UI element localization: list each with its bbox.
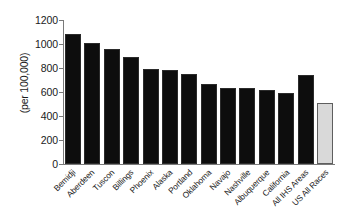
bar[interactable] (201, 84, 217, 164)
bar-slot (65, 20, 81, 164)
bar-slot (84, 20, 100, 164)
x-tick-slot: Tuscon (102, 166, 118, 217)
bar[interactable] (84, 43, 100, 164)
bar-slot (123, 20, 139, 164)
bar-slot (143, 20, 159, 164)
y-axis-tick-label: 0 (12, 159, 58, 169)
y-axis-tick (59, 140, 63, 141)
bar-slot (259, 20, 275, 164)
bar-slot (220, 20, 236, 164)
bar[interactable] (181, 74, 197, 164)
y-axis-tick (59, 68, 63, 69)
y-axis-tick (59, 116, 63, 117)
x-tick-slot: Phoenix (141, 166, 157, 217)
y-axis-tick-label: 400 (12, 111, 58, 121)
bar[interactable] (239, 88, 255, 164)
y-axis-tick-label: 200 (12, 135, 58, 145)
bar[interactable] (162, 70, 178, 164)
bar-slot (298, 20, 314, 164)
y-axis-tick (59, 20, 63, 21)
y-axis-tick-labels: 020040060080010001200 (8, 20, 58, 165)
bar[interactable] (278, 93, 294, 164)
x-tick-slot: Oklahoma (199, 166, 215, 217)
bar[interactable] (143, 69, 159, 164)
y-axis-tick (59, 164, 63, 165)
bar[interactable] (104, 49, 120, 164)
y-axis-tick-label: 600 (12, 87, 58, 97)
y-axis-tick-label: 1200 (12, 15, 58, 25)
x-axis-tick-labels: BemidjiAberdeenTusconBillingsPhoenixAlas… (63, 166, 335, 217)
bar-slot (317, 20, 333, 164)
bar-slot (239, 20, 255, 164)
y-axis-tick (59, 44, 63, 45)
y-axis-tick (59, 92, 63, 93)
bar[interactable] (123, 57, 139, 164)
plot-area (63, 20, 335, 165)
bar[interactable] (65, 34, 81, 164)
y-axis-tick-label: 1000 (12, 39, 58, 49)
bar[interactable] (298, 75, 314, 164)
x-tick-slot: US All Races (316, 166, 332, 217)
bar[interactable] (220, 88, 236, 164)
bar[interactable] (317, 103, 333, 164)
bar-chart: (per 100,000) 020040060080010001200 Bemi… (0, 0, 347, 217)
bar-slot (201, 20, 217, 164)
bar-slot (181, 20, 197, 164)
bar-slot (162, 20, 178, 164)
bar[interactable] (259, 90, 275, 164)
x-axis-line (63, 164, 335, 165)
bar-slot (278, 20, 294, 164)
bar-series (63, 20, 335, 164)
bar-slot (104, 20, 120, 164)
y-axis-tick-label: 800 (12, 63, 58, 73)
